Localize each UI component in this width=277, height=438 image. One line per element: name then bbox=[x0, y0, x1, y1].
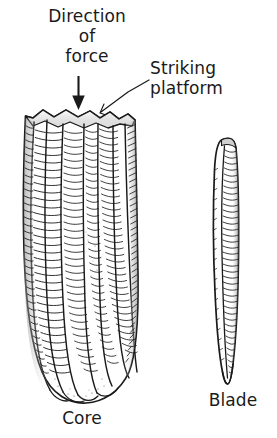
figure-core-and-blade: Direction of force Striking platform Cor… bbox=[0, 0, 277, 438]
core-illustration bbox=[23, 110, 138, 403]
blade-illustration bbox=[213, 138, 238, 384]
line-art-canvas bbox=[0, 0, 277, 438]
leader-line-icon bbox=[100, 80, 149, 116]
down-arrow-icon bbox=[72, 76, 85, 110]
